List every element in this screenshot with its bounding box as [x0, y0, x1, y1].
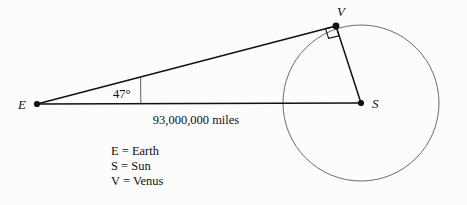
geometry-diagram: E S V 47° 93,000,000 miles E = Earth S =…: [0, 0, 467, 205]
angle-measure-label: 47°: [113, 87, 131, 101]
legend-item-sun: S = Sun: [111, 159, 151, 173]
figure-canvas: E S V 47° 93,000,000 miles E = Earth S =…: [0, 0, 467, 205]
segment-earth-venus: [37, 26, 336, 104]
point-dot-earth: [34, 101, 40, 107]
label-earth: E: [17, 97, 26, 112]
legend-item-earth: E = Earth: [111, 144, 160, 158]
label-sun: S: [372, 96, 379, 111]
distance-label: 93,000,000 miles: [153, 113, 240, 127]
legend-item-venus: V = Venus: [111, 174, 164, 188]
point-dot-sun: [358, 100, 364, 106]
point-dot-venus: [333, 23, 340, 30]
segment-venus-sun: [336, 26, 361, 103]
label-venus: V: [337, 4, 347, 19]
segment-earth-sun: [37, 103, 361, 104]
